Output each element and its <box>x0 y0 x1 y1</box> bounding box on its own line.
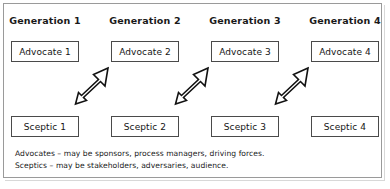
sceptic-box-3: Sceptic 3 <box>211 116 279 137</box>
advocate-box-3: Advocate 3 <box>211 41 279 62</box>
arrow-gen1-sceptic-to-gen2-advocate-icon <box>72 65 112 107</box>
caption-line-advocates: Advocates – may be sponsors, process man… <box>15 148 355 160</box>
generation-header-4: Generation 4 <box>300 15 390 26</box>
generation-header-2: Generation 2 <box>100 15 190 26</box>
generation-header-3: Generation 3 <box>200 15 290 26</box>
sceptic-box-4: Sceptic 4 <box>311 116 379 137</box>
advocate-label-1: Advocate 1 <box>19 47 71 57</box>
diagram-canvas: Generation 1 Generation 2 Generation 3 G… <box>0 0 390 189</box>
sceptic-label-1: Sceptic 1 <box>24 122 66 132</box>
caption-line-sceptics: Sceptics – may be stakeholders, adversar… <box>15 160 355 172</box>
sceptic-box-2: Sceptic 2 <box>111 116 179 137</box>
caption-block: Advocates – may be sponsors, process man… <box>15 148 355 171</box>
advocate-label-2: Advocate 2 <box>119 47 171 57</box>
advocate-label-4: Advocate 4 <box>319 47 371 57</box>
advocate-box-1: Advocate 1 <box>11 41 79 62</box>
sceptic-box-1: Sceptic 1 <box>11 116 79 137</box>
arrow-gen3-sceptic-to-gen4-advocate-icon <box>272 65 312 107</box>
advocate-box-2: Advocate 2 <box>111 41 179 62</box>
advocate-label-3: Advocate 3 <box>219 47 271 57</box>
sceptic-label-4: Sceptic 4 <box>324 122 366 132</box>
sceptic-label-3: Sceptic 3 <box>224 122 266 132</box>
arrow-gen2-sceptic-to-gen3-advocate-icon <box>172 65 212 107</box>
sceptic-label-2: Sceptic 2 <box>124 122 166 132</box>
generation-header-1: Generation 1 <box>0 15 90 26</box>
advocate-box-4: Advocate 4 <box>311 41 379 62</box>
